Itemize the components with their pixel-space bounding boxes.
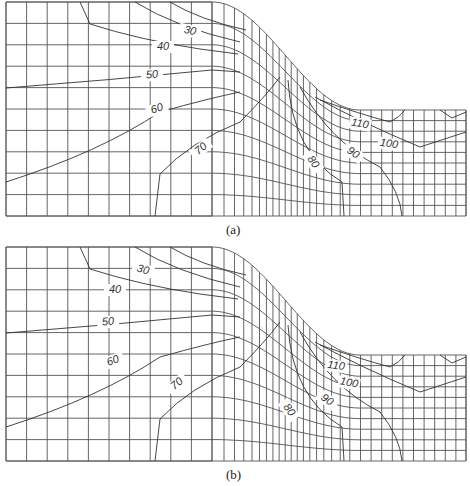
- mesh-grid: [6, 2, 466, 216]
- mesh-contour-figure: 3040506070110100908030405060701101009080: [0, 0, 470, 486]
- contour-label: 50: [145, 67, 159, 80]
- panel-a: 30405060701101009080: [6, 2, 466, 216]
- caption-b: (b): [226, 467, 241, 483]
- contour-label: 40: [157, 40, 170, 52]
- caption-a: (a): [226, 222, 240, 238]
- panel-b: 30405060701101009080: [6, 247, 466, 461]
- mesh-grid: [6, 247, 466, 461]
- contour-label: 50: [101, 314, 115, 327]
- contour-label: 110: [327, 358, 347, 372]
- contour-label: 40: [109, 283, 122, 295]
